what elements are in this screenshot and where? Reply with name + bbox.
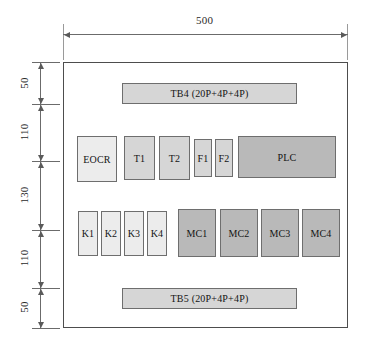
dim-arrow-seg1-top [38, 63, 44, 69]
dim-arrow-width-left [64, 32, 70, 38]
dim-label-height-2: 110 [18, 117, 30, 147]
dim-arrow-seg3-top [38, 162, 44, 168]
panel-layout-drawing: 500 50 110 130 110 50 TB4 (20P+4P+4P) EO… [0, 0, 370, 347]
dim-arrow-seg4-top [38, 231, 44, 237]
dim-label-height-5: 50 [18, 295, 30, 319]
component-k3[interactable]: K3 [124, 211, 144, 256]
component-tb4[interactable]: TB4 (20P+4P+4P) [122, 83, 297, 104]
dim-line-width [63, 34, 348, 35]
dim-tick-1 [32, 104, 60, 105]
dim-extension-line-left-top [63, 24, 64, 60]
dim-arrow-seg4-bottom [38, 282, 44, 288]
component-eocr[interactable]: EOCR [77, 136, 117, 182]
dim-arrow-seg5-bottom [38, 322, 44, 328]
dim-label-height-3: 130 [18, 180, 30, 210]
dim-arrow-seg5-top [38, 289, 44, 295]
component-k1[interactable]: K1 [78, 211, 98, 256]
dim-arrow-width-right [341, 32, 347, 38]
component-mc3[interactable]: MC3 [261, 209, 299, 257]
dim-arrow-seg3-bottom [38, 224, 44, 230]
dim-extension-line-right-top [347, 24, 348, 60]
component-t2[interactable]: T2 [159, 136, 190, 180]
component-mc4[interactable]: MC4 [302, 209, 340, 257]
dim-label-overall-width: 500 [196, 14, 213, 26]
component-tb5[interactable]: TB5 (20P+4P+4P) [122, 288, 297, 309]
dim-label-height-1: 50 [18, 71, 30, 95]
component-mc1[interactable]: MC1 [178, 209, 216, 257]
dim-arrow-seg2-top [38, 105, 44, 111]
dim-tick-0 [32, 62, 60, 63]
component-plc[interactable]: PLC [238, 136, 336, 178]
dim-arrow-seg2-bottom [38, 155, 44, 161]
component-mc2[interactable]: MC2 [220, 209, 258, 257]
dim-tick-5 [32, 328, 60, 329]
component-k4[interactable]: K4 [147, 211, 167, 256]
component-f1[interactable]: F1 [194, 139, 212, 177]
component-f2[interactable]: F2 [215, 139, 233, 177]
dim-tick-4 [32, 288, 60, 289]
dim-tick-2 [32, 161, 60, 162]
dim-label-height-4: 110 [18, 243, 30, 273]
component-t1[interactable]: T1 [124, 136, 155, 180]
dim-tick-3 [32, 230, 60, 231]
dim-arrow-seg1-bottom [38, 98, 44, 104]
component-k2[interactable]: K2 [101, 211, 121, 256]
